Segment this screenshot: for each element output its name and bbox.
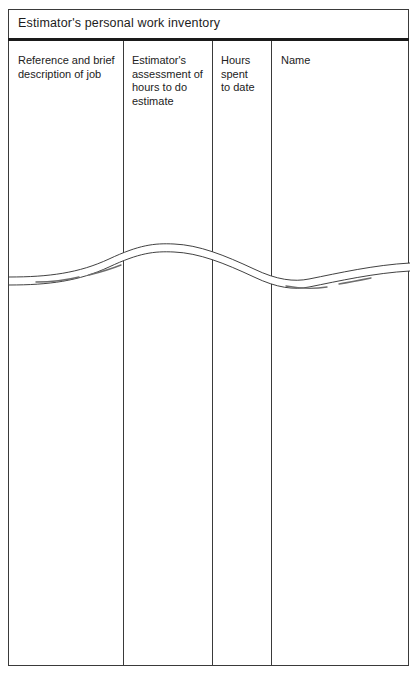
estimator-inventory-form: Estimator's personal work inventory Refe… [8,9,409,666]
column-header-line: Hours [221,54,271,68]
column-header-line: assessment of [132,68,210,82]
inventory-table: Reference and brief description of job E… [8,41,409,666]
column-divider-1 [123,41,124,665]
wave-artifact-left2 [89,265,121,275]
column-header-line: estimate [132,95,210,109]
page-title: Estimator's personal work inventory [18,16,220,30]
column-divider-2 [212,41,213,665]
wave-artifact-right2 [339,278,371,284]
column-header-hours-spent: Hours spent to date [221,54,271,95]
column-header-line: hours to do [132,81,210,95]
column-header-reference: Reference and brief description of job [18,54,122,81]
column-header-assessment: Estimator's assessment of hours to do es… [132,54,210,108]
column-header-line: description of job [18,68,122,82]
wave-artifact-left [36,277,79,282]
wave-upper-curve [9,244,410,280]
column-header-line: spent [221,68,271,82]
wavy-break-line [9,41,410,666]
column-divider-3 [271,41,272,665]
column-header-line: Name [281,54,401,68]
wave-lower-curve [9,252,410,288]
column-header-name: Name [281,54,401,68]
form-title-band: Estimator's personal work inventory [8,9,409,39]
wave-artifact-right [286,286,327,288]
column-header-line: Estimator's [132,54,210,68]
column-header-line: Reference and brief [18,54,122,68]
column-header-line: to date [221,81,271,95]
